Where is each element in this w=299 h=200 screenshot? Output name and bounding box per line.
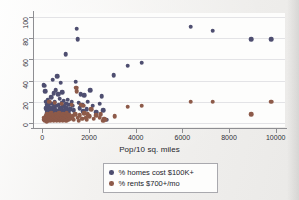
y-tick-label-text: 80: [22, 38, 30, 46]
y-tick-label-text: 0: [22, 123, 30, 127]
data-point: [89, 107, 94, 112]
y-tick-label-text: 60: [22, 59, 30, 67]
y-tick-label: 100: [0, 13, 27, 21]
data-point: [125, 64, 130, 69]
y-tick-label: 40: [0, 77, 27, 85]
chart-legend: % homes cost $100K+ % rents $700+/mo: [103, 163, 218, 193]
legend-label-rents: % rents $700+/mo: [119, 179, 180, 188]
y-tick-label: 20: [0, 98, 27, 106]
data-point: [76, 37, 81, 42]
x-tick-label: 0: [40, 133, 44, 142]
data-point: [97, 102, 102, 107]
data-point: [75, 89, 80, 94]
x-axis-line: [31, 128, 287, 129]
data-point: [75, 27, 80, 32]
data-point: [269, 37, 274, 42]
y-tick-label-text: 100: [22, 17, 30, 29]
legend-marker-icon-homes: [109, 170, 114, 175]
data-point: [60, 102, 65, 107]
data-point: [52, 100, 57, 105]
data-point: [42, 84, 47, 89]
data-point: [58, 80, 63, 85]
data-point: [81, 104, 86, 109]
data-point: [210, 99, 215, 104]
y-tick-label-text: 20: [22, 102, 30, 110]
x-tick-label: 8000: [221, 133, 237, 142]
data-point: [103, 117, 108, 122]
data-point: [249, 112, 254, 117]
data-point: [69, 103, 74, 108]
y-axis-line: [33, 11, 34, 129]
x-tick-label: 10000: [266, 133, 285, 142]
data-point: [73, 79, 78, 84]
data-point: [188, 24, 193, 29]
scan-edge-shading: [287, 0, 299, 200]
x-tick-label: 2000: [81, 133, 97, 142]
data-point: [100, 94, 105, 99]
data-point: [112, 114, 117, 119]
y-tick-label-text: 40: [22, 81, 30, 89]
data-point: [82, 93, 87, 98]
scatter-chart-figure: 020406080100 0200040006000800010000 Pop/…: [0, 0, 299, 200]
legend-marker-icon-rents: [109, 181, 114, 186]
data-point: [269, 99, 274, 104]
data-point: [111, 73, 116, 78]
legend-item-homes: % homes cost $100K+: [109, 167, 212, 178]
x-tick-label: 6000: [175, 133, 191, 142]
y-tick-label: 80: [0, 34, 27, 42]
legend-label-homes: % homes cost $100K+: [119, 168, 194, 177]
x-axis-title: Pop/10 sq. miles: [0, 145, 299, 154]
x-tick-label: 4000: [128, 133, 144, 142]
y-tick-label: 60: [0, 55, 27, 63]
data-point: [125, 105, 130, 110]
y-tick-label: 0: [0, 119, 27, 127]
data-point: [43, 89, 48, 94]
data-point: [47, 99, 52, 104]
data-point: [88, 88, 93, 93]
data-point: [249, 37, 254, 42]
data-point: [55, 74, 60, 79]
legend-item-rents: % rents $700+/mo: [109, 178, 212, 189]
data-points-layer: [33, 13, 285, 127]
data-point: [188, 99, 193, 104]
data-point: [139, 104, 144, 109]
data-point: [210, 29, 215, 34]
data-point: [86, 99, 91, 104]
data-point: [139, 60, 144, 65]
data-point: [60, 90, 65, 95]
data-point: [63, 52, 68, 57]
plot-area-frame: [33, 13, 285, 127]
